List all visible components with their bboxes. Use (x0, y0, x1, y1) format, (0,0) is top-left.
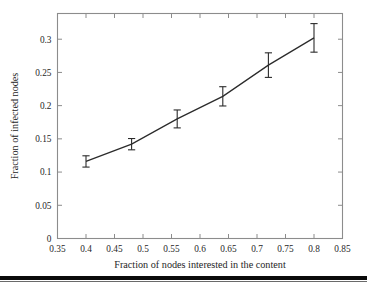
x-axis-tick-label: 0.6 (194, 244, 206, 254)
x-axis-tick-label: 0.35 (49, 244, 66, 254)
plot-frame (58, 14, 343, 239)
x-axis-tick-label: 0.7 (251, 244, 263, 254)
y-axis-tick-label: 0.2 (40, 101, 52, 111)
y-axis-tick-label: 0.05 (35, 201, 52, 211)
y-axis-tick-label: 0.1 (40, 167, 52, 177)
x-axis-tick-label: 0.75 (277, 244, 294, 254)
x-axis-tick-label: 0.5 (137, 244, 149, 254)
y-axis-tick-label: 0.15 (35, 134, 52, 144)
x-axis-tick-label: 0.65 (220, 244, 237, 254)
y-axis-tick-label: 0 (47, 234, 52, 244)
page-footer-rule (0, 276, 367, 280)
y-axis-tick-label: 0.3 (40, 35, 52, 45)
y-axis-title: Fraction of infected nodes (9, 73, 20, 180)
x-axis-tick-label: 0.8 (308, 244, 320, 254)
x-axis-tick-label: 0.45 (106, 244, 123, 254)
chart-canvas: 0.350.40.450.50.550.60.650.70.750.80.850… (0, 0, 367, 288)
x-axis-tick-label: 0.85 (334, 244, 351, 254)
page-footer-rule-thin (0, 281, 367, 282)
x-axis-tick-label: 0.4 (80, 244, 92, 254)
figure-panel: 0.350.40.450.50.550.60.650.70.750.80.850… (0, 0, 367, 288)
x-axis-tick-label: 0.55 (163, 244, 180, 254)
y-axis-tick-label: 0.25 (35, 68, 52, 78)
x-axis-title: Fraction of nodes interested in the cont… (114, 259, 286, 270)
